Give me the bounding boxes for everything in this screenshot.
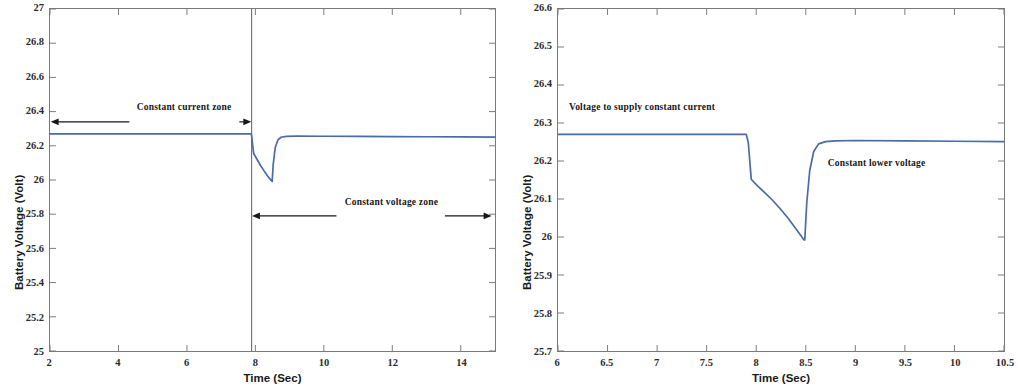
x-tick-label: 4	[98, 357, 138, 368]
x-tick-label: 7.5	[686, 357, 726, 368]
annotation-constant-voltage-zone: Constant voltage zone	[345, 197, 438, 207]
series-line	[558, 134, 1004, 240]
y-tick-label: 25.2	[3, 312, 44, 323]
x-tick-label: 10	[935, 357, 975, 368]
x-tick-label: 7	[637, 357, 677, 368]
annotation-constant-current-zone: Constant current zone	[137, 102, 232, 112]
x-axis-title-left: Time (Sec)	[49, 372, 496, 384]
y-tick-label: 26.6	[3, 71, 44, 82]
x-tick-label: 6	[537, 357, 577, 368]
annotation-voltage-to-supply-constant-current: Voltage to supply constant current	[569, 102, 715, 112]
y-tick-label: 25.7	[511, 346, 552, 357]
y-tick-label: 25	[3, 346, 44, 357]
x-tick-label: 9.5	[885, 357, 925, 368]
y-tick-label: 26.5	[511, 40, 552, 51]
plot-area-right	[557, 8, 1005, 352]
y-tick-label: 27	[3, 2, 44, 13]
annotation-arrow-constant-current-zone	[51, 118, 252, 125]
x-tick-label: 6	[167, 357, 207, 368]
y-tick-label: 26.3	[511, 117, 552, 128]
chart-panel-left: 2525.225.425.625.82626.226.426.626.827 2…	[0, 0, 509, 390]
y-tick-label: 26.4	[511, 78, 552, 89]
x-tick-label: 9	[836, 357, 876, 368]
y-tick-label: 26.4	[3, 105, 44, 116]
plot-area-left	[49, 8, 496, 352]
y-axis-title-left: Battery Voltage (Volt)	[13, 175, 25, 290]
y-tick-label: 26.2	[3, 140, 44, 151]
x-tick-label: 6.5	[587, 357, 627, 368]
y-tick-label: 26.8	[3, 36, 44, 47]
x-tick-label: 8	[235, 357, 275, 368]
x-axis-title-right: Time (Sec)	[557, 372, 1005, 384]
annotation-constant-lower-voltage: Constant lower voltage	[828, 158, 926, 168]
x-tick-label: 14	[442, 357, 482, 368]
x-tick-label: 12	[373, 357, 413, 368]
y-tick-label: 26.2	[511, 155, 552, 166]
y-tick-label: 26.6	[511, 2, 552, 13]
plot-svg-left	[50, 9, 495, 351]
x-tick-label: 8.5	[786, 357, 826, 368]
y-tick-label: 25.8	[511, 308, 552, 319]
x-tick-label: 10	[304, 357, 344, 368]
x-tick-label: 8	[736, 357, 776, 368]
x-tick-label: 2	[29, 357, 69, 368]
plot-svg-right	[558, 9, 1004, 351]
y-axis-title-right: Battery Voltage (Volt)	[521, 175, 533, 290]
x-tick-label: 10.5	[985, 357, 1018, 368]
chart-panel-right: 25.725.825.92626.126.226.326.426.526.6 6…	[509, 0, 1018, 390]
series-line	[50, 134, 495, 182]
annotation-arrow-constant-voltage-zone	[252, 213, 492, 220]
